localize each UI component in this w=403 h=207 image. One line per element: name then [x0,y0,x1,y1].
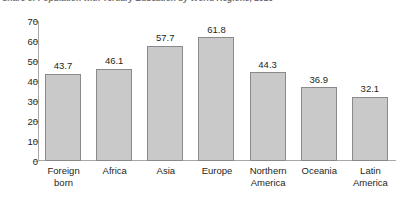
bar[interactable] [45,74,81,161]
bar-value-label: 43.7 [38,61,88,71]
bar-series: 43.746.157.761.844.336.932.1 [38,21,396,161]
y-axis-tick-label: 30 [8,97,38,107]
x-axis-category-label: Asia [139,165,193,177]
bar-value-label: 46.1 [89,56,139,66]
x-axis-category-label: Africa [88,165,142,177]
category-label-line: Africa [88,165,142,177]
bar-slot: 32.1 [345,21,395,161]
x-axis-category-label: NorthernAmerica [241,165,295,188]
y-axis-tick-label: 40 [8,77,38,87]
bar-slot: 36.9 [294,21,344,161]
y-axis-tick-label: 0 [8,157,38,167]
category-label-line: Asia [139,165,193,177]
bar[interactable] [198,37,234,161]
bar[interactable] [147,46,183,161]
bar[interactable] [301,87,337,161]
bar[interactable] [352,97,388,161]
bar-value-label: 36.9 [294,75,344,85]
category-label-line: America [241,177,295,189]
category-label-line: Foreign [37,165,91,177]
y-axis-tick-label: 20 [8,117,38,127]
y-axis-tick-label: 70 [8,17,38,27]
y-axis-tick-label: 50 [8,57,38,67]
bar-value-label: 32.1 [345,84,395,94]
bar-value-label: 57.7 [140,33,190,43]
x-axis-category-labels: ForeignbornAfricaAsiaEuropeNorthernAmeri… [38,165,396,205]
bar-slot: 46.1 [89,21,139,161]
y-axis-tick-label: 10 [8,137,38,147]
chart-figure: Share of Population with Tertiary Educat… [0,0,403,207]
x-axis-category-label: Europe [190,165,244,177]
category-label-line: Europe [190,165,244,177]
x-axis-category-label: Oceania [292,165,346,177]
figure-title-strip: Share of Population with Tertiary Educat… [0,0,403,4]
bar[interactable] [250,72,286,161]
category-label-line: Latin [343,165,397,177]
category-label-line: Oceania [292,165,346,177]
category-label-line: born [37,177,91,189]
x-axis-category-label: LatinAmerica [343,165,397,188]
figure-title: Share of Population with Tertiary Educat… [2,0,273,3]
x-axis-category-label: Foreignborn [37,165,91,188]
bar[interactable] [96,69,132,161]
category-label-line: America [343,177,397,189]
bar-slot: 43.7 [38,21,88,161]
plot-area: 010203040506070 43.746.157.761.844.336.9… [0,8,403,207]
bar-value-label: 44.3 [243,60,293,70]
bar-value-label: 61.8 [191,25,241,35]
bar-slot: 61.8 [191,21,241,161]
bar-slot: 44.3 [243,21,293,161]
y-axis-tick-label: 60 [8,37,38,47]
bar-slot: 57.7 [140,21,190,161]
category-label-line: Northern [241,165,295,177]
